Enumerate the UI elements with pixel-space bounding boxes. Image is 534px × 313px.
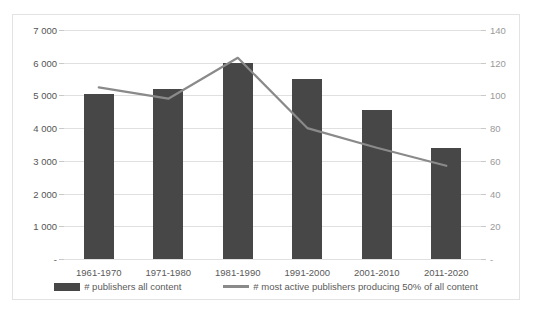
right-axis-tick-label: 40 xyxy=(490,188,501,199)
right-axis-tick-label: 120 xyxy=(490,57,506,68)
right-tick-mark xyxy=(481,128,486,129)
right-tick-mark xyxy=(481,161,486,162)
legend-label-bars: # publishers all content xyxy=(84,281,181,292)
left-axis-tick-label: 4 000 xyxy=(33,123,57,134)
x-axis-tick-label: 2011-2020 xyxy=(424,267,469,278)
left-axis-tick-label: 2 000 xyxy=(33,188,57,199)
right-tick-mark xyxy=(481,30,486,31)
legend-line-swatch-icon xyxy=(223,285,249,288)
right-axis-tick-label: - xyxy=(490,254,493,265)
right-tick-mark xyxy=(481,95,486,96)
left-axis-tick-label: 7 000 xyxy=(33,25,57,36)
chart-legend: # publishers all content # most active p… xyxy=(13,281,519,292)
legend-label-line: # most active publishers producing 50% o… xyxy=(253,281,477,292)
legend-bar-swatch-icon xyxy=(54,283,80,291)
x-axis-tick-label: 1961-1970 xyxy=(76,267,121,278)
plot-area: -1 0002 0003 0004 0005 0006 0007 000 -20… xyxy=(64,30,481,259)
right-tick-mark xyxy=(481,259,486,260)
left-axis-tick-label: 1 000 xyxy=(33,221,57,232)
x-axis-tick-label: 1971-1980 xyxy=(146,267,191,278)
right-tick-mark xyxy=(481,226,486,227)
right-axis-tick-label: 80 xyxy=(490,123,501,134)
line-path xyxy=(99,58,447,166)
left-axis-tick-label: 3 000 xyxy=(33,155,57,166)
line-series xyxy=(64,30,481,259)
x-axis-tick-label: 1991-2000 xyxy=(285,267,330,278)
right-axis-tick-label: 20 xyxy=(490,221,501,232)
left-axis-tick-label: 6 000 xyxy=(33,57,57,68)
chart-container: -1 0002 0003 0004 0005 0006 0007 000 -20… xyxy=(12,14,520,300)
left-tick-mark xyxy=(59,259,64,260)
right-axis-tick-label: 140 xyxy=(490,25,506,36)
x-axis-tick-label: 1981-1990 xyxy=(215,267,260,278)
right-axis-tick-label: 100 xyxy=(490,90,506,101)
right-tick-mark xyxy=(481,194,486,195)
left-axis-tick-label: - xyxy=(54,254,57,265)
legend-item-line: # most active publishers producing 50% o… xyxy=(223,281,477,292)
legend-item-bars: # publishers all content xyxy=(54,281,181,292)
x-axis-tick-label: 2001-2010 xyxy=(354,267,399,278)
gridline xyxy=(64,259,481,260)
right-axis-tick-label: 60 xyxy=(490,155,501,166)
left-axis-tick-label: 5 000 xyxy=(33,90,57,101)
right-tick-mark xyxy=(481,63,486,64)
